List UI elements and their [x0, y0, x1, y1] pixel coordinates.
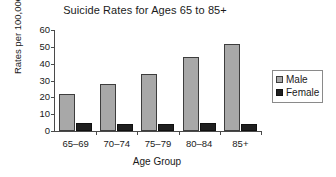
x-axis-category-label: 70–74: [104, 138, 130, 149]
bar-group: [55, 30, 96, 131]
y-axis-tick-label: 50: [39, 42, 50, 52]
y-axis-tick-mark: [51, 131, 55, 132]
legend-item-male[interactable]: Male: [276, 73, 319, 86]
bar-group: [220, 30, 261, 131]
x-axis-tick-mark: [179, 131, 180, 135]
bar-female-1: [117, 124, 133, 131]
legend-swatch-female-icon: [276, 89, 283, 96]
y-axis-tick-label: 40: [39, 59, 50, 69]
bar-male-0: [59, 94, 75, 131]
x-axis-category-label: 65–69: [62, 138, 88, 149]
bar-male-2: [141, 74, 157, 131]
legend-swatch-male-icon: [276, 76, 283, 83]
bar-chart-figure: Suicide Rates for Ages 65 to 85+ Rates p…: [0, 0, 336, 177]
x-axis-category-label: 85+: [232, 138, 248, 149]
bar-female-4: [241, 124, 257, 131]
bar-male-3: [183, 57, 199, 131]
bar-male-1: [100, 84, 116, 131]
bar-male-4: [224, 44, 240, 131]
chart-title: Suicide Rates for Ages 65 to 85+: [0, 4, 290, 17]
y-axis-tick-label: 20: [39, 92, 50, 102]
bar-group: [137, 30, 178, 131]
bar-female-3: [200, 123, 216, 131]
x-axis-tick-mark: [261, 131, 262, 135]
bar-group: [179, 30, 220, 131]
x-axis-category-label: 75–79: [145, 138, 171, 149]
legend-label: Female: [286, 87, 319, 99]
y-axis-tick-label: 0: [45, 126, 50, 136]
legend-label: Male: [286, 74, 308, 86]
y-axis-label: Rates per 100,000: [11, 0, 25, 87]
legend-item-female[interactable]: Female: [276, 86, 319, 99]
y-axis-tick-label: 30: [39, 76, 50, 86]
y-axis-tick-label: 10: [39, 109, 50, 119]
x-axis-label: Age Group: [54, 156, 260, 168]
x-axis-tick-mark: [137, 131, 138, 135]
plot-area: 0102030405060 65–6970–7475–7980–8485+: [54, 30, 261, 132]
bar-group: [96, 30, 137, 131]
x-axis-tick-mark: [220, 131, 221, 135]
x-axis-category-label: 80–84: [186, 138, 212, 149]
y-axis-tick-label: 60: [39, 25, 50, 35]
bar-female-0: [76, 123, 92, 131]
bar-female-2: [158, 124, 174, 131]
chart-legend: MaleFemale: [272, 70, 323, 103]
x-axis-tick-mark: [96, 131, 97, 135]
